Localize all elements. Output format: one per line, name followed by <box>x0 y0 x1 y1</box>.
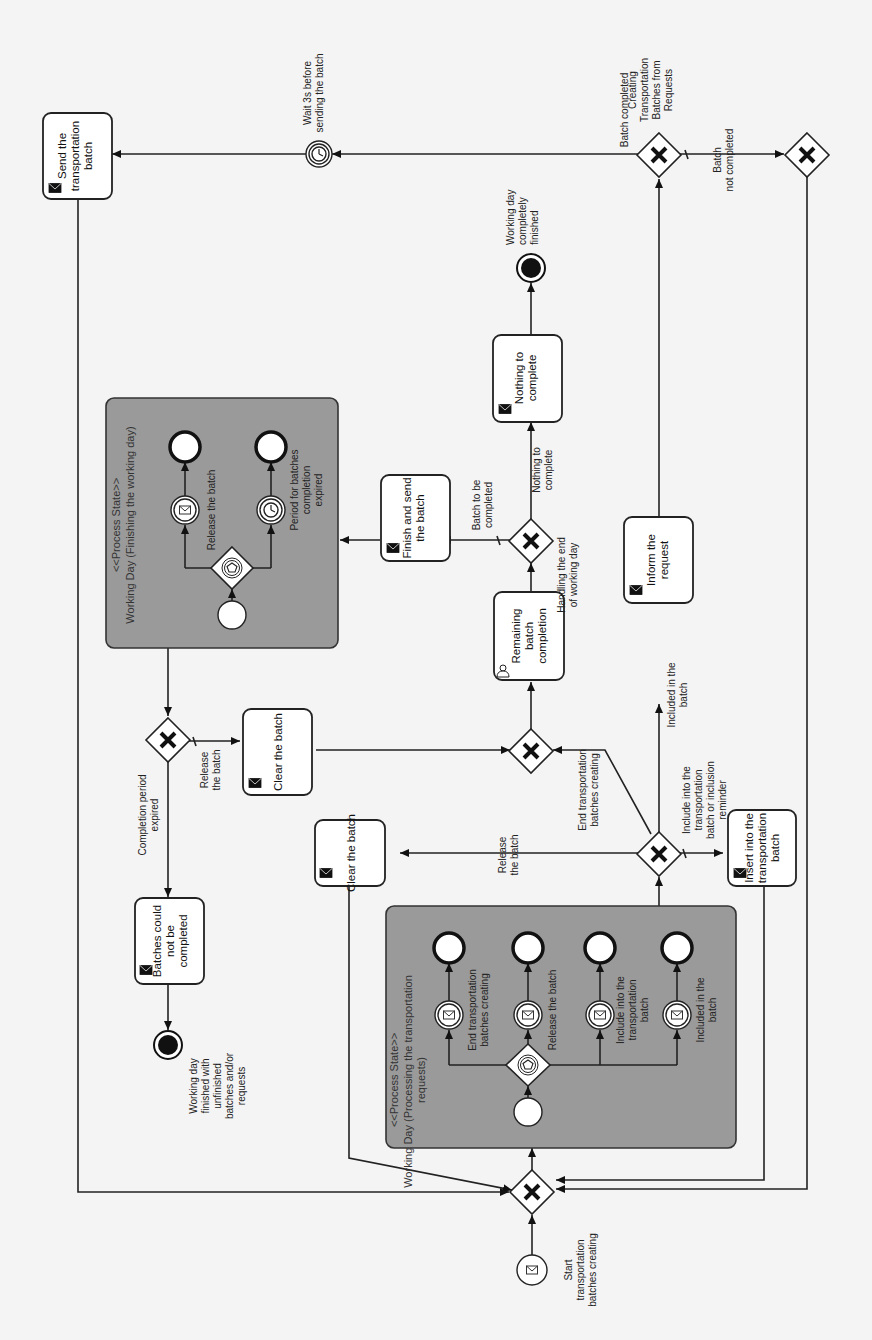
task-clear-batch-2[interactable]: Clear the batch <box>243 709 312 795</box>
gateway-batch-not-completed[interactable] <box>785 133 829 177</box>
process-state-title: Working Day (Finishing the working day) <box>124 426 136 623</box>
catch-message-included <box>663 1001 691 1029</box>
process-end-event <box>662 933 692 963</box>
branch-label: End transportationbatches creating <box>467 969 490 1051</box>
process-end-event <box>513 933 543 963</box>
gateway-handling-end-of-day[interactable] <box>509 519 553 563</box>
svg-text:Nothing tocomplete: Nothing tocomplete <box>513 352 538 404</box>
gateway-creating-batches[interactable] <box>637 133 681 177</box>
process-start-event <box>514 1098 542 1126</box>
gateway-request-routing[interactable] <box>637 832 681 876</box>
flow-label-batch-to-be-completed: Batch to becompleted <box>471 479 494 530</box>
end-event-unfinished-label: Working dayfinished withunfinishedbatche… <box>188 1052 247 1119</box>
process-state-processing-requests[interactable]: <<Process State>> Working Day (Processin… <box>386 906 736 1188</box>
branch-label: Release the batch <box>206 470 217 551</box>
catch-message-release <box>514 1001 542 1029</box>
start-event-message[interactable] <box>517 1255 547 1285</box>
gateway-finishing-outcome[interactable] <box>146 718 190 762</box>
bpmn-diagram: <<Process State>> Working Day (Processin… <box>0 0 872 1340</box>
task-inform-request[interactable]: Inform therequest <box>624 517 693 603</box>
flow-label-completion-expired: Completion periodexpired <box>137 774 160 855</box>
task-batches-could-not-be-completed[interactable]: Batches couldnot becompleted <box>135 898 204 984</box>
process-state-stereotype: <<Process State>> <box>388 1033 400 1127</box>
gateway-creating-label: CreatingTransportationBatches fromReques… <box>627 58 674 122</box>
task-finish-and-send[interactable]: Finish and sendthe batch <box>381 475 450 561</box>
timer-label: Wait 3s beforesending the batch <box>302 54 325 133</box>
svg-text:Clear the batch: Clear the batch <box>272 713 284 791</box>
catch-message-include <box>586 1001 614 1029</box>
end-event-unfinished[interactable] <box>154 1031 182 1059</box>
flow-label-batch-not-completed: Batchnot completed <box>712 129 735 192</box>
flow-label-end-creating: End transportationbatches creating <box>577 749 600 831</box>
process-end-event <box>434 933 464 963</box>
flow-label-include-into: Include into thetransportationbatch or i… <box>681 761 728 839</box>
flow-label-release-2: Releasethe batch <box>199 749 222 790</box>
end-event-label: Working daycompletelyfinished <box>505 190 540 245</box>
svg-text:Clear the batch: Clear the batch <box>345 814 357 892</box>
start-event-label: Starttransportationbatches creating <box>563 1233 598 1306</box>
gateway-main-merge[interactable] <box>510 1170 554 1214</box>
process-start-event <box>218 601 246 629</box>
process-state-finishing-day[interactable]: <<Process State>> Working Day (Finishing… <box>106 398 338 648</box>
process-state-stereotype: <<Process State>> <box>110 478 122 572</box>
process-end-event <box>585 933 615 963</box>
flow-label-release: Releasethe batch <box>497 834 520 875</box>
timer-wait-event[interactable] <box>306 141 332 167</box>
catch-message-end-creating <box>435 1001 463 1029</box>
svg-text:Inform therequest: Inform therequest <box>645 534 670 586</box>
task-remaining-batch-completion[interactable]: Remainingbatchcompletion <box>494 592 564 680</box>
branch-label: Release the batch <box>547 970 558 1051</box>
gateway-end-merge[interactable] <box>509 729 553 773</box>
end-event-day-finished[interactable] <box>517 254 545 282</box>
flow-label-nothing-to-complete: Nothing tocomplete <box>531 447 554 493</box>
task-clear-batch[interactable]: Clear the batch <box>315 814 385 892</box>
task-nothing-to-complete[interactable]: Nothing tocomplete <box>493 335 562 422</box>
task-insert-into-batch[interactable]: Insert into thetransportationbatch <box>728 810 796 886</box>
process-end-event <box>170 432 200 462</box>
process-end-event <box>256 432 286 462</box>
flow-label-included-in: Included in thebatch <box>666 662 689 727</box>
catch-message-release <box>171 496 199 524</box>
catch-timer-period-expired <box>257 496 285 524</box>
gateway-handling-label: Handling the endof working day <box>556 537 579 613</box>
task-send-transportation-batch[interactable]: Send thetransportationbatch <box>43 113 112 199</box>
